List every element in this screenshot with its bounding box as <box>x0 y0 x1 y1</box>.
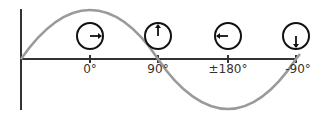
phase-circle-0 <box>77 23 103 49</box>
phase-circle-180 <box>215 23 241 49</box>
label-180-deg: ±180° <box>209 62 248 76</box>
label-90-deg: 90° <box>147 62 168 76</box>
phase-circle-90 <box>145 23 171 49</box>
phase-circle-neg90 <box>283 23 309 49</box>
phase-diagram <box>0 0 325 116</box>
label-0-deg: 0° <box>83 62 97 76</box>
label-neg90-deg: -90° <box>285 62 311 76</box>
